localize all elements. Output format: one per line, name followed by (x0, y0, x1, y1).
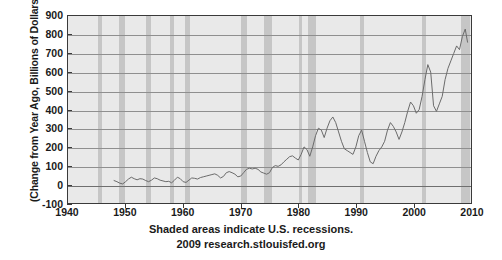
y-tick-label: 800 (3, 29, 63, 39)
x-tick-label: 1990 (326, 206, 386, 219)
y-tick-label: 700 (3, 48, 63, 58)
x-tick-label: 1950 (95, 206, 155, 219)
y-tick-label: 900 (3, 10, 63, 20)
y-tick-mark (67, 185, 72, 186)
plot-area (67, 15, 472, 204)
y-tick-label: 400 (3, 105, 63, 115)
y-tick-mark (67, 128, 72, 129)
x-tick-label: 2010 (442, 206, 502, 219)
series-line (68, 16, 471, 203)
source-note: 2009 research.stlouisfed.org (0, 237, 502, 252)
x-tick-label: 2000 (384, 206, 444, 219)
y-tick-mark (67, 204, 72, 205)
y-tick-mark (67, 34, 72, 35)
y-tick-label: 500 (3, 86, 63, 96)
y-tick-mark (67, 53, 72, 54)
x-tick-label: 1980 (268, 206, 328, 219)
y-tick-mark (67, 72, 72, 73)
y-tick-label: 0 (3, 180, 63, 190)
x-tick-label: 1940 (37, 206, 97, 219)
recession-note: Shaded areas indicate U.S. recessions. (0, 222, 502, 237)
chart-footer: Shaded areas indicate U.S. recessions. 2… (0, 222, 502, 252)
y-tick-mark (67, 147, 72, 148)
y-tick-label: 300 (3, 123, 63, 133)
chart-figure: (Change from Year Ago, Billions of Dolla… (0, 0, 502, 260)
x-axis-tick-labels: 19401950196019701980199020002010 (0, 206, 502, 222)
y-tick-mark (67, 110, 72, 111)
x-tick-label: 1970 (211, 206, 271, 219)
y-tick-label: 200 (3, 142, 63, 152)
y-tick-label: 100 (3, 161, 63, 171)
x-tick-label: 1960 (153, 206, 213, 219)
y-tick-mark (67, 91, 72, 92)
y-tick-mark (67, 166, 72, 167)
y-tick-mark (67, 15, 72, 16)
y-tick-label: 600 (3, 67, 63, 77)
